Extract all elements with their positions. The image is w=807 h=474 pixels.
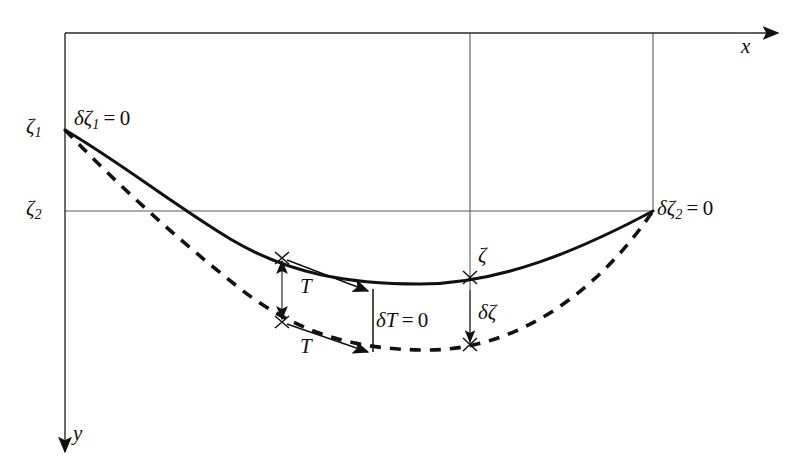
label-zeta1-glyph: ζ (26, 114, 35, 138)
label-zeta1: ζ1 (26, 116, 42, 139)
label-y-axis: y (73, 423, 82, 444)
label-delta-T-glyph: δT (376, 308, 397, 332)
varied-path-curve (65, 130, 653, 350)
variation-measure-annotation (275, 252, 289, 328)
label-delta-zeta: δζ (478, 302, 496, 323)
label-delta-zeta2-equals-zero: δζ2 = 0 (657, 198, 713, 221)
label-delta-zeta2-equals: = 0 (682, 196, 713, 220)
label-delta-T-equals-zero: δT = 0 (376, 310, 428, 331)
figure-canvas: ζ1 ζ2 δζ1 = 0 δζ2 = 0 ζ δζ T T δT = 0 x … (0, 0, 807, 474)
label-tension-upper: T (300, 276, 312, 297)
label-zeta: ζ (478, 245, 487, 266)
label-delta-T-equals: = 0 (397, 308, 428, 332)
label-tension-lower: T (300, 336, 312, 357)
label-delta-zeta1-equals-zero: δζ1 = 0 (74, 108, 130, 131)
actual-path-curve (65, 130, 653, 284)
label-delta-zeta1-glyph: δζ (74, 106, 92, 130)
label-delta-zeta1-equals: = 0 (99, 106, 130, 130)
label-x-axis: x (741, 36, 750, 57)
axes (65, 33, 778, 452)
label-zeta2-glyph: ζ (26, 196, 35, 220)
label-delta-zeta2-glyph: δζ (657, 196, 675, 220)
label-zeta2-subscript: 2 (35, 206, 42, 222)
label-zeta2: ζ2 (26, 198, 42, 221)
label-zeta1-subscript: 1 (35, 124, 42, 140)
diagram-svg (0, 0, 807, 474)
